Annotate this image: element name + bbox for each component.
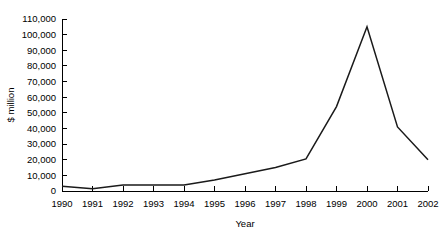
- x-tick-label: 1996: [234, 198, 255, 209]
- x-tick-label: 1992: [112, 198, 133, 209]
- y-tick-label: 110,000: [22, 13, 56, 24]
- x-axis-tick-labels: 1990199119921993199419951996199719981999…: [51, 198, 438, 209]
- y-tick-label: 80,000: [27, 60, 56, 71]
- x-axis-tick-marks: [62, 186, 428, 191]
- x-tick-label: 1993: [143, 198, 164, 209]
- line-chart: 010,00020,00030,00040,00050,00060,00070,…: [0, 0, 442, 240]
- y-axis-title: $ million: [5, 88, 16, 123]
- y-tick-label: 90,000: [27, 45, 56, 56]
- x-tick-label: 1995: [204, 198, 225, 209]
- y-tick-label: 60,000: [27, 92, 56, 103]
- x-tick-label: 2001: [387, 198, 408, 209]
- x-tick-label: 1990: [51, 198, 72, 209]
- data-series-line: [62, 27, 428, 189]
- x-tick-label: 2000: [356, 198, 377, 209]
- x-tick-label: 1998: [295, 198, 316, 209]
- y-tick-label: 0: [51, 185, 56, 196]
- y-tick-label: 50,000: [27, 107, 56, 118]
- x-tick-label: 1997: [265, 198, 286, 209]
- y-tick-label: 30,000: [27, 138, 56, 149]
- y-tick-label: 10,000: [27, 170, 56, 181]
- x-tick-label: 1991: [82, 198, 103, 209]
- x-tick-label: 2002: [417, 198, 438, 209]
- y-tick-label: 40,000: [27, 123, 56, 134]
- y-tick-label: 100,000: [22, 29, 56, 40]
- y-axis-tick-marks: [62, 19, 67, 191]
- y-tick-label: 70,000: [27, 76, 56, 87]
- x-axis-title: Year: [235, 218, 254, 229]
- x-tick-label: 1994: [173, 198, 194, 209]
- x-tick-label: 1999: [326, 198, 347, 209]
- y-tick-label: 20,000: [27, 154, 56, 165]
- y-axis-tick-labels: 010,00020,00030,00040,00050,00060,00070,…: [22, 13, 56, 196]
- chart-canvas: 010,00020,00030,00040,00050,00060,00070,…: [0, 0, 442, 240]
